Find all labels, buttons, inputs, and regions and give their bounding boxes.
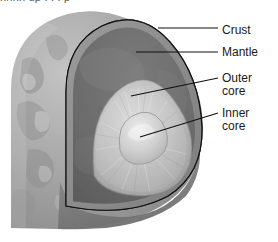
earth-cutaway-svg: Crust Mantle Outer core Inner core bbox=[0, 0, 278, 242]
earth-interior-figure: nnnn up . . . p bbox=[0, 0, 278, 242]
label-outer-core-line2: core bbox=[222, 84, 246, 98]
label-mantle: Mantle bbox=[222, 45, 258, 59]
label-crust: Crust bbox=[222, 23, 251, 37]
label-inner-core-line1: Inner bbox=[222, 106, 249, 120]
diagram-labels: Crust Mantle Outer core Inner core bbox=[222, 23, 258, 133]
label-inner-core-line2: core bbox=[222, 119, 246, 133]
label-outer-core-line1: Outer bbox=[222, 71, 252, 85]
